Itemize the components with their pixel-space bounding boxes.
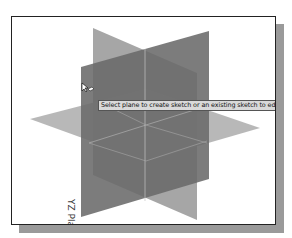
datum-planes-scene bbox=[12, 17, 275, 224]
hint-tooltip: Select plane to create sketch or an exis… bbox=[98, 100, 276, 111]
graphics-viewport[interactable]: Select plane to create sketch or an exis… bbox=[11, 16, 276, 225]
yz-plane-label: YZ Plane bbox=[66, 199, 76, 225]
select-plane-cursor-icon bbox=[81, 82, 95, 94]
